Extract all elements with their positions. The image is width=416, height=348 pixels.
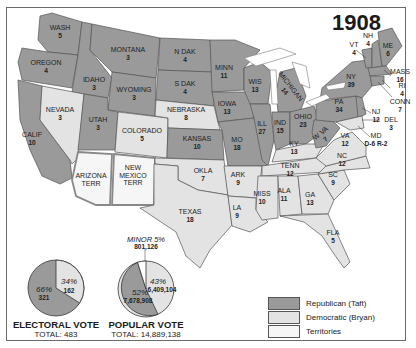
svg-text:ME: ME <box>383 42 394 49</box>
svg-text:S DAK: S DAK <box>174 80 195 87</box>
electoral-vote-caption: ELECTORAL VOTE TOTAL: 483 <box>6 319 106 339</box>
legend-item-republican: Republican (Taft) <box>268 296 375 310</box>
svg-text:4: 4 <box>44 67 48 74</box>
svg-text:UTAH: UTAH <box>89 116 108 123</box>
state-label-del: DEL3 <box>384 116 398 131</box>
svg-text:23: 23 <box>299 121 307 128</box>
svg-text:13: 13 <box>223 108 231 115</box>
svg-text:D-6 R-2: D-6 R-2 <box>365 140 388 147</box>
popular-vote-total: TOTAL: 14,889,138 <box>96 330 196 339</box>
svg-text:TERR: TERR <box>81 180 100 187</box>
svg-text:IND: IND <box>274 119 286 126</box>
svg-text:OKLA: OKLA <box>194 167 213 174</box>
svg-text:3: 3 <box>58 114 62 121</box>
svg-text:6: 6 <box>386 50 390 57</box>
electoral-vote-total: TOTAL: 483 <box>6 330 106 339</box>
electoral-dem-pct: 34% <box>61 277 77 286</box>
svg-text:34: 34 <box>335 106 343 113</box>
electoral-rep-votes: 321 <box>39 294 50 301</box>
svg-text:NEBRASKA: NEBRASKA <box>167 106 205 113</box>
democratic-swatch <box>268 311 300 324</box>
svg-text:NC: NC <box>337 152 347 159</box>
svg-text:7: 7 <box>398 106 402 113</box>
republican-swatch <box>268 297 300 310</box>
svg-text:WYOMING: WYOMING <box>117 86 152 93</box>
territory-swatch <box>268 325 300 338</box>
svg-text:11: 11 <box>281 195 288 202</box>
svg-text:SC: SC <box>328 171 338 178</box>
popular-vote-title: POPULAR VOTE <box>96 319 196 330</box>
svg-text:4: 4 <box>183 88 187 95</box>
svg-text:MASS: MASS <box>390 68 410 75</box>
svg-text:NY: NY <box>346 73 356 80</box>
state-label-vt: VT4 <box>350 41 360 56</box>
lake-michigan <box>270 70 278 104</box>
svg-text:RI: RI <box>399 82 406 89</box>
svg-text:13: 13 <box>290 148 298 155</box>
svg-text:4: 4 <box>400 90 404 97</box>
svg-text:COLORADO: COLORADO <box>122 127 163 134</box>
svg-text:5: 5 <box>140 135 144 142</box>
svg-text:ARK: ARK <box>231 171 246 178</box>
svg-text:15: 15 <box>276 127 284 134</box>
svg-text:10: 10 <box>28 139 36 146</box>
svg-text:3: 3 <box>92 84 96 91</box>
svg-text:18: 18 <box>186 216 194 223</box>
svg-text:MEXICO: MEXICO <box>119 172 147 179</box>
svg-text:DEL: DEL <box>384 116 398 123</box>
svg-text:18: 18 <box>233 144 241 151</box>
svg-text:NEW: NEW <box>125 164 142 171</box>
state-label-va: VA12 <box>341 132 350 147</box>
svg-text:4: 4 <box>183 56 187 63</box>
state-label-ky: KY13 <box>289 140 299 155</box>
state-nj <box>356 96 366 118</box>
svg-text:11: 11 <box>221 72 228 79</box>
svg-text:WIS: WIS <box>248 78 262 85</box>
svg-text:ARIZONA: ARIZONA <box>75 172 106 179</box>
legend-item-territories: Territories <box>268 324 375 338</box>
svg-text:7: 7 <box>201 175 205 182</box>
svg-text:4: 4 <box>366 40 370 47</box>
svg-text:3: 3 <box>96 124 100 131</box>
svg-text:3: 3 <box>389 124 393 131</box>
state-label-nj: NJ12 <box>372 108 381 123</box>
svg-text:CONN: CONN <box>390 98 411 105</box>
svg-text:MO: MO <box>231 136 243 143</box>
electoral-rep-pct: 66% <box>36 285 52 294</box>
svg-text:10: 10 <box>193 143 201 150</box>
state-ny <box>320 60 372 100</box>
svg-text:13: 13 <box>306 199 314 206</box>
svg-text:TERR: TERR <box>123 179 142 186</box>
svg-text:VT: VT <box>350 41 360 48</box>
state-conn-ri <box>370 76 384 86</box>
svg-text:9: 9 <box>331 179 335 186</box>
state-label-nc: NC12 <box>337 152 347 167</box>
svg-text:9: 9 <box>236 179 240 186</box>
svg-text:ILL: ILL <box>257 120 267 127</box>
svg-text:OHIO: OHIO <box>294 113 312 120</box>
svg-text:GA: GA <box>305 191 315 198</box>
map-title: 1908 <box>332 10 381 36</box>
state-label-md: MDD-6 R-2 <box>365 132 388 147</box>
svg-text:IDAHO: IDAHO <box>83 76 106 83</box>
svg-text:MISS: MISS <box>253 190 270 197</box>
svg-text:12: 12 <box>341 140 349 147</box>
svg-text:CALIF: CALIF <box>22 131 42 138</box>
popular-dem-pct: 43% <box>150 277 166 286</box>
state-label-ill: ILL27 <box>257 120 267 135</box>
svg-text:27: 27 <box>258 128 266 135</box>
svg-text:IOWA: IOWA <box>218 100 237 107</box>
svg-text:PA: PA <box>335 98 344 105</box>
svg-text:OREGON: OREGON <box>30 59 61 66</box>
svg-text:9: 9 <box>235 212 239 219</box>
legend-item-democratic: Democratic (Bryan) <box>268 310 375 324</box>
popular-rep-votes: 7,678,908 <box>124 297 153 305</box>
svg-text:12: 12 <box>372 116 380 123</box>
svg-text:5: 5 <box>331 237 335 244</box>
svg-text:TENN: TENN <box>280 162 299 169</box>
popular-minor-votes: 801,126 <box>134 243 158 251</box>
svg-text:N DAK: N DAK <box>174 48 196 55</box>
state-fla <box>280 214 350 268</box>
svg-text:TEXAS: TEXAS <box>179 208 202 215</box>
svg-text:MONTANA: MONTANA <box>111 46 146 53</box>
